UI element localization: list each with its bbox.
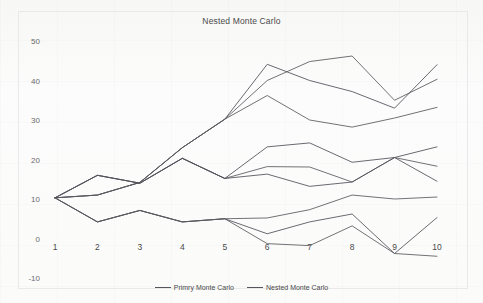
series-line-9 xyxy=(55,198,437,256)
y-axis-tick-label: 50 xyxy=(31,37,40,46)
x-axis-tick-label: 8 xyxy=(350,242,355,252)
x-axis-tick-label: 10 xyxy=(432,242,442,252)
legend-item-2[interactable]: Nested Monte Carlo xyxy=(247,284,328,291)
x-axis-tick-label: 5 xyxy=(222,242,227,252)
legend-item-1[interactable]: Primry Monte Carlo xyxy=(155,284,234,291)
x-axis-tick-label: 7 xyxy=(307,242,312,252)
series-lines-group xyxy=(55,56,437,256)
legend-line-swatch xyxy=(155,287,171,288)
series-line-8 xyxy=(55,198,437,254)
y-axis-tick-label: 40 xyxy=(31,77,40,86)
line-chart-plot: 50403020100-10 12345678910 xyxy=(0,0,483,303)
y-axis-tick-label: -10 xyxy=(28,274,40,283)
x-axis-tick-label: 3 xyxy=(138,242,143,252)
series-line-4 xyxy=(55,143,437,198)
legend-label: Nested Monte Carlo xyxy=(266,284,328,291)
y-axis-tick-label: 0 xyxy=(36,235,41,244)
y-axis-tick-labels: 50403020100-10 xyxy=(28,37,40,283)
series-line-3 xyxy=(55,96,437,198)
series-line-6 xyxy=(55,158,437,198)
legend-label: Primry Monte Carlo xyxy=(174,284,234,291)
x-axis-tick-label: 2 xyxy=(95,242,100,252)
y-axis-tick-label: 10 xyxy=(31,195,40,204)
x-axis-tick-label: 9 xyxy=(392,242,397,252)
chart-container: Nested Monte Carlo 50403020100-10 123456… xyxy=(0,0,483,303)
chart-legend: Primry Monte CarloNested Monte Carlo xyxy=(0,284,483,291)
y-axis-tick-label: 30 xyxy=(31,116,40,125)
y-axis-tick-label: 20 xyxy=(31,156,40,165)
legend-line-swatch xyxy=(247,287,263,288)
x-axis-tick-label: 1 xyxy=(53,242,58,252)
x-axis-tick-label: 4 xyxy=(180,242,185,252)
